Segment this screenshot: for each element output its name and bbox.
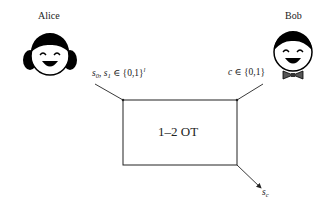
bob-label: Bob bbox=[285, 10, 302, 21]
alice-input-arrow bbox=[95, 84, 123, 100]
bob-input-arrow bbox=[237, 84, 263, 100]
bowtie-icon bbox=[283, 71, 303, 79]
ot-diagram-canvas bbox=[0, 0, 335, 208]
output-label: sc bbox=[262, 187, 269, 198]
output-arrow bbox=[237, 165, 261, 188]
alice-input-label: s0, s1 ∈ {0,1}l bbox=[92, 66, 145, 79]
bob-input-label: c ∈ {0,1} bbox=[228, 66, 265, 77]
bob-avatar-icon bbox=[274, 31, 312, 79]
alice-label: Alice bbox=[38, 10, 60, 21]
ot-box-label: 1–2 OT bbox=[158, 124, 198, 140]
alice-avatar-icon bbox=[23, 33, 77, 75]
